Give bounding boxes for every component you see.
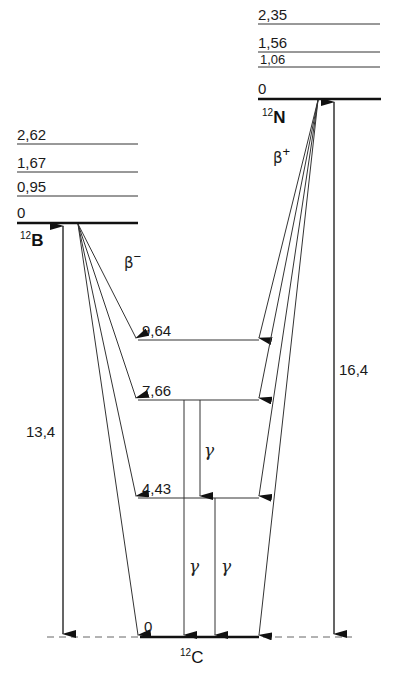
beta-plus-to-ground-arrow [259,100,318,635]
b-level-0-label: 0 [17,204,25,221]
b-nucleus-label: 12B [20,230,43,250]
b-level-2-62-label: 2,62 [17,126,46,143]
b-q-value-label: 13,4 [26,423,55,440]
c-level-4-43-label: 4,43 [142,480,171,497]
beta-plus-to-9-64-arrow [259,100,318,338]
n-q-value-label: 16,4 [339,361,368,378]
beta-minus-to-7-66-arrow [78,224,136,398]
n-level-1-06-label: 1,06 [260,52,285,67]
beta-minus-to-ground-arrow [78,224,138,635]
gamma-transitions: γ γ γ [184,400,232,635]
beta-plus-to-4-43-arrow [259,100,318,496]
n-level-1-56-label: 1,56 [258,34,287,51]
beta-plus-label: β+ [273,144,290,167]
gamma-label-upper: γ [204,440,215,460]
beta-minus-label: β− [124,249,141,272]
n-level-0-label: 0 [258,80,266,97]
c-level-7-66-label: 7,66 [142,382,171,399]
b-level-1-67-label: 1,67 [17,154,46,171]
gamma-label-lower-right: γ [221,556,232,576]
c-level-9-64-label: 9,64 [142,322,171,339]
gamma-label-lower-left: γ [189,556,200,576]
boron-levels: 2,62 1,67 0,95 0 12B β− [17,126,141,272]
n-nucleus-label: 12N [262,107,285,127]
beta-minus-transitions [78,224,138,635]
n-level-2-35-label: 2,35 [258,6,287,23]
nitrogen-levels: 2,35 1,56 1,06 0 12N β+ [258,6,381,167]
energy-level-diagram: 2,35 1,56 1,06 0 12N β+ 2,62 1,67 0,95 0… [0,0,395,673]
q-value-arrows: 13,4 16,4 [26,102,368,634]
b-level-0-95-label: 0,95 [17,178,46,195]
c-level-0-label: 0 [144,618,152,635]
c-nucleus-label: 12C [180,647,203,667]
beta-plus-transitions [259,100,318,635]
